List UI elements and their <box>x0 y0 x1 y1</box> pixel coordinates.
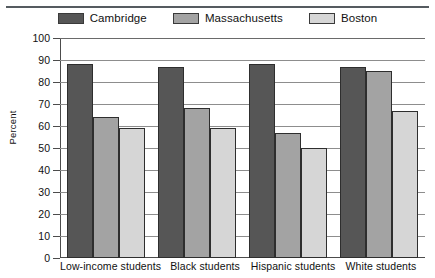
y-tick-mark-40 <box>53 170 60 171</box>
bar[interactable] <box>67 64 93 258</box>
y-tick-mark-10 <box>53 236 60 237</box>
bar[interactable] <box>119 128 145 258</box>
y-tick-label-70: 70 <box>8 98 50 110</box>
x-axis-label: Black students <box>161 260 249 272</box>
bar-set <box>60 38 151 258</box>
bar-group <box>60 38 151 258</box>
y-tick-mark-20 <box>53 214 60 215</box>
y-tick-mark-100 <box>53 38 60 39</box>
y-tick-mark-90 <box>53 60 60 61</box>
y-tick-label-30: 30 <box>8 186 50 198</box>
y-tick-label-90: 90 <box>8 54 50 66</box>
y-tick-label-100: 100 <box>8 32 50 44</box>
y-tick-label-10: 10 <box>8 230 50 242</box>
bar[interactable] <box>392 111 418 258</box>
bar-group <box>334 38 425 258</box>
bar-groups <box>60 38 425 258</box>
bar[interactable] <box>366 71 392 258</box>
y-tick-label-0: 0 <box>8 252 50 264</box>
x-axis-label: Hispanic students <box>249 260 337 272</box>
bar[interactable] <box>301 148 327 258</box>
y-tick-mark-50 <box>53 148 60 149</box>
bar[interactable] <box>184 108 210 258</box>
bar-group <box>151 38 242 258</box>
y-tick-mark-70 <box>53 104 60 105</box>
y-tick-mark-0 <box>53 258 60 259</box>
y-tick-label-60: 60 <box>8 120 50 132</box>
x-axis-label: White students <box>337 260 425 272</box>
y-tick-label-20: 20 <box>8 208 50 220</box>
y-tick-mark-80 <box>53 82 60 83</box>
bar-group <box>243 38 334 258</box>
bar[interactable] <box>249 64 275 258</box>
y-tick-mark-60 <box>53 126 60 127</box>
bar-set <box>334 38 425 258</box>
chart-figure: Cambridge Massachusetts Boston Percent 1… <box>0 0 435 278</box>
y-tick-label-80: 80 <box>8 76 50 88</box>
bar[interactable] <box>275 133 301 258</box>
plot-wrapper: Percent 1009080706050403020100 Low-incom… <box>0 0 435 278</box>
bar-set <box>151 38 242 258</box>
x-axis-label: Low-income students <box>60 260 161 272</box>
y-tick-label-50: 50 <box>8 142 50 154</box>
plot-area: 1009080706050403020100 <box>60 38 425 258</box>
bar[interactable] <box>340 67 366 258</box>
y-tick-mark-30 <box>53 192 60 193</box>
y-tick-label-40: 40 <box>8 164 50 176</box>
bar[interactable] <box>93 117 119 258</box>
bar[interactable] <box>210 128 236 258</box>
bar[interactable] <box>158 67 184 258</box>
bar-set <box>243 38 334 258</box>
x-axis-labels: Low-income studentsBlack studentsHispani… <box>60 260 425 272</box>
